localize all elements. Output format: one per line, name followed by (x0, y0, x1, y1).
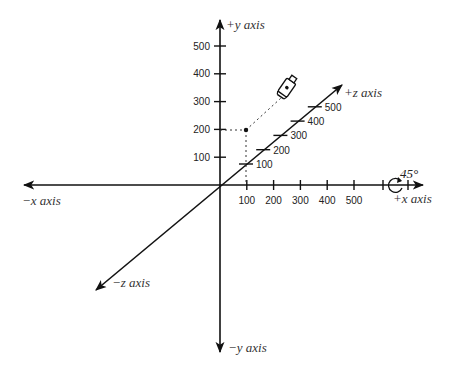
z-tick-label: 300 (290, 130, 307, 141)
y-tick-label: 300 (193, 96, 210, 107)
x-tick-label: 500 (346, 195, 363, 206)
z-tick-label: 400 (308, 116, 325, 127)
x-tick-label: 100 (238, 195, 255, 206)
z-axis-negative-label: −z axis (112, 275, 150, 290)
x-axis-negative-label: −x axis (22, 193, 61, 208)
coordinate-diagram: 100200300400500 100200300400500 10020030… (0, 0, 449, 373)
view-direction-line (246, 98, 281, 130)
point-marker (244, 128, 248, 132)
x-tick-label: 400 (319, 195, 336, 206)
y-axis-negative-label: −y axis (228, 340, 267, 355)
z-ticks: 100200300400500 (239, 102, 342, 170)
z-tick-label: 500 (325, 102, 342, 113)
z-axis-positive-label: +z axis (344, 85, 382, 100)
x-tick-label: 200 (265, 195, 282, 206)
z-axis (96, 85, 342, 290)
video-camera-icon (276, 74, 299, 100)
z-tick-label: 200 (273, 145, 290, 156)
y-ticks: 100200300400500 (193, 41, 226, 163)
y-tick-label: 200 (193, 124, 210, 135)
y-tick-label: 500 (193, 41, 210, 52)
x-ticks: 100200300400500 (238, 180, 362, 206)
z-tick-label: 100 (256, 159, 273, 170)
y-axis-positive-label: +y axis (226, 17, 265, 32)
y-tick-label: 400 (193, 68, 210, 79)
rotation-angle-label: 45° (400, 166, 418, 181)
x-tick-label: 300 (292, 195, 309, 206)
x-axis-positive-label: +x axis (393, 191, 432, 206)
y-tick-label: 100 (193, 152, 210, 163)
